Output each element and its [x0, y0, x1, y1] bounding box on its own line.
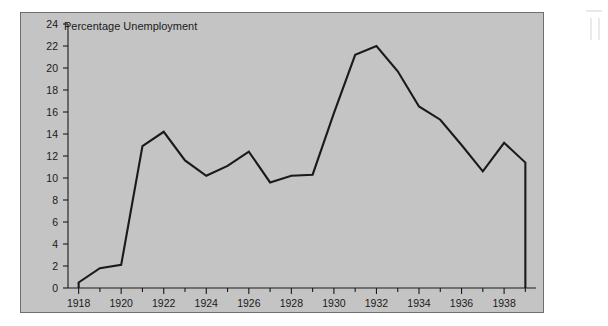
x-axis-ticks — [79, 288, 526, 294]
y-axis-tick-label: 20 — [26, 63, 58, 74]
y-axis-tick-label: 8 — [26, 195, 58, 206]
scan-artifact-b — [590, 18, 592, 40]
y-axis-tick-label: 4 — [26, 239, 58, 250]
figure-container: Percentage Unemployment 0246810121416182… — [0, 0, 608, 326]
y-axis-tick-label: 10 — [26, 173, 58, 184]
scan-artifact-c — [598, 18, 600, 40]
x-axis-tick-label: 1938 — [479, 298, 529, 309]
y-axis-ticks — [63, 24, 68, 288]
unemployment-line — [79, 46, 526, 288]
y-axis-tick-label: 24 — [26, 19, 58, 30]
y-axis-tick-label: 2 — [26, 261, 58, 272]
scan-artifact-a — [586, 10, 602, 12]
y-axis-tick-label: 18 — [26, 85, 58, 96]
y-axis-tick-label: 0 — [26, 283, 58, 294]
chart-svg — [0, 0, 608, 326]
y-axis-tick-label: 22 — [26, 41, 58, 52]
y-axis-tick-label: 12 — [26, 151, 58, 162]
y-axis-tick-label: 14 — [26, 129, 58, 140]
y-axis-tick-label: 16 — [26, 107, 58, 118]
y-axis-tick-label: 6 — [26, 217, 58, 228]
plot-area — [0, 0, 608, 326]
axes — [68, 24, 536, 288]
